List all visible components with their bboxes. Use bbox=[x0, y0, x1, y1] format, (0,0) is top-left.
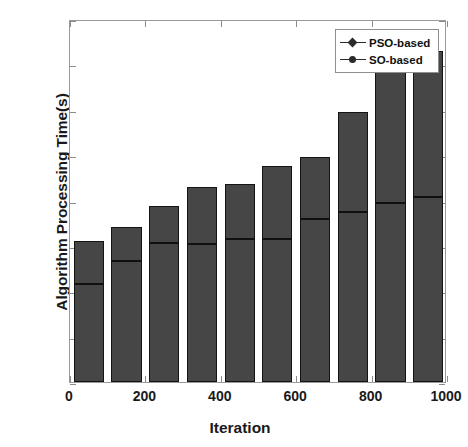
so-marker-icon bbox=[340, 54, 366, 66]
bar-pso bbox=[74, 241, 104, 382]
x-tick-label: 600 bbox=[260, 388, 330, 404]
bar-so-level bbox=[263, 238, 291, 240]
x-tick-mark bbox=[70, 376, 71, 382]
bar-so-level bbox=[339, 211, 367, 213]
legend-label-pso: PSO-based bbox=[369, 37, 430, 49]
bar-pso bbox=[111, 227, 141, 382]
x-tick-mark bbox=[372, 376, 373, 382]
x-axis-title: Iteration bbox=[60, 419, 420, 437]
legend-label-so: SO-based bbox=[369, 54, 423, 66]
bar-pso bbox=[149, 206, 179, 383]
bar-pso bbox=[300, 157, 330, 383]
x-tick-mark bbox=[296, 376, 297, 382]
x-tick-label: 800 bbox=[336, 388, 406, 404]
bar-pso bbox=[225, 184, 255, 382]
legend-item-so: SO-based bbox=[340, 51, 433, 68]
bar-so-level bbox=[376, 202, 404, 204]
x-tick-mark bbox=[447, 376, 448, 382]
x-tick-mark-top bbox=[296, 21, 297, 27]
pso-marker-icon bbox=[340, 37, 366, 49]
legend-item-pso: PSO-based bbox=[340, 34, 433, 51]
bar-pso bbox=[413, 51, 443, 382]
x-tick-mark-top bbox=[145, 21, 146, 27]
y-tick-mark bbox=[70, 66, 76, 67]
y-tick-mark-right bbox=[439, 384, 445, 385]
bar-so-level bbox=[226, 238, 254, 240]
x-tick-mark-top bbox=[447, 21, 448, 27]
y-tick-mark bbox=[70, 112, 76, 113]
bar-so-level bbox=[188, 243, 216, 245]
y-tick-mark bbox=[70, 157, 76, 158]
y-tick-mark bbox=[70, 384, 76, 385]
bar-so-level bbox=[414, 196, 442, 198]
bar-pso bbox=[338, 112, 368, 382]
x-tick-label: 1000 bbox=[411, 388, 468, 404]
bar-so-level bbox=[112, 260, 140, 262]
x-tick-mark-top bbox=[221, 21, 222, 27]
y-tick-mark bbox=[70, 203, 76, 204]
x-tick-mark bbox=[221, 376, 222, 382]
x-tick-label: 200 bbox=[109, 388, 179, 404]
bar-pso bbox=[187, 187, 217, 382]
x-tick-mark bbox=[145, 376, 146, 382]
bar-pso bbox=[262, 166, 292, 382]
y-tick-mark-right bbox=[439, 21, 445, 22]
bar-so-level bbox=[301, 218, 329, 220]
x-tick-label: 0 bbox=[34, 388, 104, 404]
x-tick-mark-top bbox=[70, 21, 71, 27]
legend: PSO-based SO-based bbox=[335, 29, 439, 73]
x-tick-mark-top bbox=[372, 21, 373, 27]
figure-container: Algorithm Processing Time(s) PSO-based S… bbox=[0, 0, 468, 447]
plot-area: PSO-based SO-based bbox=[69, 20, 446, 383]
bar-so-level bbox=[75, 283, 103, 285]
x-tick-label: 400 bbox=[185, 388, 255, 404]
bar-so-level bbox=[150, 242, 178, 244]
bar-pso bbox=[375, 64, 405, 382]
